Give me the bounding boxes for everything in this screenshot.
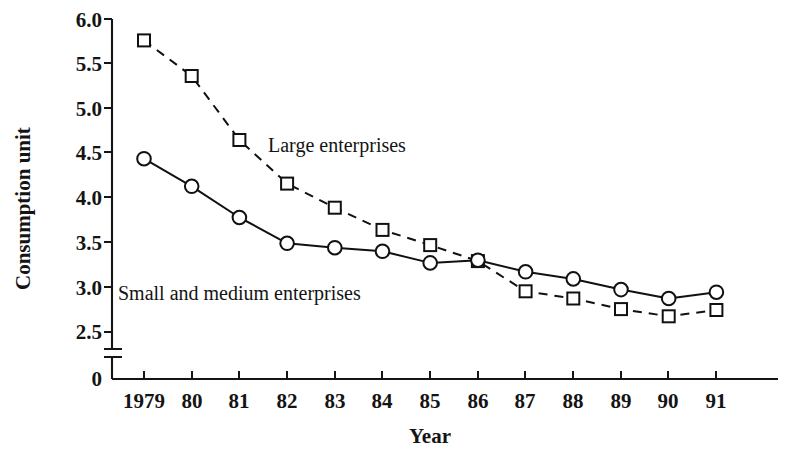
data-point-marker [376, 245, 390, 259]
x-tick-label: 82 [277, 389, 298, 413]
series-line-small-medium-enterprises [144, 159, 716, 299]
axis-break-icon [104, 349, 122, 357]
y-tick-label: 6.0 [76, 8, 102, 32]
y-tick-label: 3.5 [76, 231, 102, 255]
data-point-marker [663, 310, 675, 322]
x-tick-marks [144, 371, 716, 379]
y-tick-label: 4.5 [76, 141, 102, 165]
data-point-marker [662, 292, 676, 306]
x-tick-label: 83 [325, 389, 346, 413]
data-point-marker [424, 239, 436, 251]
y-axis-title: Consumption unit [11, 127, 35, 290]
x-tick-labels: 1979 80 81 82 83 84 85 86 87 88 89 90 91 [123, 389, 727, 413]
data-point-marker [520, 285, 532, 297]
data-point-marker [614, 283, 628, 297]
data-point-marker [567, 272, 581, 286]
y-tick-labels: 6.0 5.5 5.0 4.5 4.0 3.5 3.0 2.5 0 [76, 8, 102, 391]
data-point-marker [138, 34, 150, 46]
data-point-marker [377, 224, 389, 236]
data-point-marker [281, 178, 293, 190]
x-tick-label: 89 [611, 389, 632, 413]
chart-figure: Consumption unit 6.0 5.5 5.0 4.5 4.0 3.5… [0, 0, 794, 455]
x-tick-label: 1979 [123, 389, 165, 413]
series-annotation-small-medium-enterprises: Small and medium enterprises [118, 282, 361, 305]
data-point-marker [185, 180, 199, 194]
series-line-large-enterprises [144, 40, 716, 316]
data-point-marker [233, 211, 247, 225]
data-point-marker [710, 285, 724, 299]
y-tick-label: 0 [92, 367, 103, 391]
y-axis-upper [104, 19, 112, 348]
y-tick-label: 3.0 [76, 276, 102, 300]
y-tick-label: 2.5 [76, 320, 102, 344]
chart-canvas: Consumption unit 6.0 5.5 5.0 4.5 4.0 3.5… [0, 0, 794, 455]
x-tick-label: 88 [563, 389, 584, 413]
data-point-marker [329, 202, 341, 214]
data-series-layer [137, 34, 723, 322]
x-tick-label: 90 [658, 389, 679, 413]
data-point-marker [233, 134, 245, 146]
y-tick-marks [104, 63, 112, 332]
x-tick-label: 86 [468, 389, 489, 413]
x-axis-title: Year [409, 424, 451, 448]
data-point-marker [423, 256, 437, 270]
data-point-marker [280, 237, 294, 251]
data-point-marker [186, 70, 198, 82]
x-tick-label: 81 [229, 389, 250, 413]
x-tick-label: 84 [372, 389, 394, 413]
y-tick-label: 5.0 [76, 97, 102, 121]
data-point-marker [710, 304, 722, 316]
x-tick-label: 85 [420, 389, 441, 413]
data-point-marker [328, 241, 342, 255]
x-tick-label: 87 [515, 389, 536, 413]
data-point-marker [615, 303, 627, 315]
data-point-marker [519, 265, 533, 279]
y-tick-label: 4.0 [76, 186, 102, 210]
x-tick-label: 91 [706, 389, 727, 413]
series-annotation-large-enterprises: Large enterprises [268, 134, 406, 157]
x-tick-label: 80 [182, 389, 203, 413]
y-tick-label: 5.5 [76, 52, 102, 76]
data-point-marker [567, 293, 579, 305]
data-point-marker [137, 152, 151, 166]
data-point-marker [471, 253, 485, 267]
